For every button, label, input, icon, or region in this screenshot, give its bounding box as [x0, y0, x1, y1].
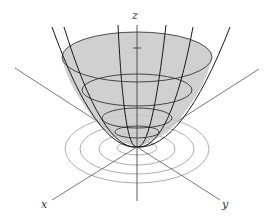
y-axis-label: y	[222, 199, 228, 210]
z-axis-label: z	[132, 10, 138, 21]
diagram-svg	[0, 0, 273, 222]
paraboloid-diagram: z x y	[0, 0, 273, 222]
x-axis-label: x	[41, 199, 47, 210]
